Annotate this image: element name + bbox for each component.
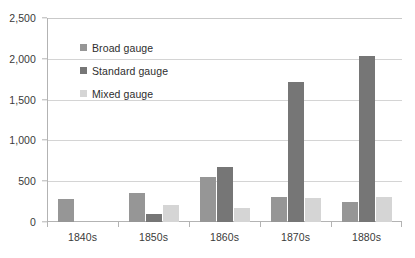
bar-group-1870s (260, 18, 331, 222)
legend-swatch-icon (80, 67, 87, 74)
bar-1860s-broad (200, 177, 216, 222)
x-axis-tick (331, 222, 332, 227)
bar-1880s-broad (342, 202, 358, 222)
y-axis-label: 2,500 (9, 12, 36, 24)
bar-1870s-broad (271, 197, 287, 222)
y-axis-label: 1,500 (9, 94, 36, 106)
y-axis-label: 2,000 (9, 53, 36, 65)
legend-swatch-icon (80, 90, 87, 97)
bar-1850s-broad (129, 193, 145, 222)
x-axis-tick (401, 222, 402, 227)
x-axis-label-1880s: 1880s (352, 231, 381, 243)
legend-item-standard-gauge: Standard gauge (80, 61, 168, 80)
x-axis-label-1840s: 1840s (68, 231, 97, 243)
legend-swatch-icon (80, 44, 87, 51)
bar-1840s-broad (58, 199, 74, 222)
y-axis-labels: 2,500 2,000 1,500 1,000 500 0 (0, 0, 44, 258)
x-axis-label-1850s: 1850s (139, 231, 168, 243)
x-axis-tick (118, 222, 119, 227)
legend-label: Broad gauge (92, 42, 153, 54)
legend-item-mixed-gauge: Mixed gauge (80, 84, 168, 103)
legend-label: Mixed gauge (92, 88, 153, 100)
bar-chart: 2,500 2,000 1,500 1,000 500 0 1840s 1850… (0, 0, 415, 258)
y-axis-label: 0 (30, 216, 36, 228)
bar-1870s-standard (288, 82, 304, 222)
legend-item-broad-gauge: Broad gauge (80, 38, 168, 57)
x-axis-label-1870s: 1870s (281, 231, 310, 243)
bar-1880s-standard (359, 56, 375, 222)
x-axis-label-1860s: 1860s (210, 231, 239, 243)
bar-1860s-mixed (234, 208, 250, 222)
x-axis-tick (260, 222, 261, 227)
legend-label: Standard gauge (92, 65, 168, 77)
bar-1850s-mixed (163, 205, 179, 222)
bar-group-1860s (189, 18, 260, 222)
bar-1850s-standard (146, 214, 162, 222)
x-axis-tick (47, 222, 48, 227)
x-axis-tick (189, 222, 190, 227)
bar-1880s-mixed (376, 197, 392, 222)
y-axis-label: 1,000 (9, 134, 36, 146)
legend: Broad gauge Standard gauge Mixed gauge (80, 38, 168, 107)
bar-1860s-standard (217, 167, 233, 222)
bar-1870s-mixed (305, 198, 321, 222)
y-axis-label: 500 (18, 175, 36, 187)
bar-group-1880s (331, 18, 402, 222)
